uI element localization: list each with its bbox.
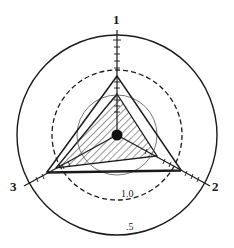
ring-label-dashed: 1.0 xyxy=(121,188,134,199)
axis-label-2: 2 xyxy=(212,179,219,194)
axis-label-3: 3 xyxy=(10,179,17,194)
axis-2-line xyxy=(117,135,210,186)
axis-label-1: 1 xyxy=(113,12,120,27)
radar-diagram: 1 2 3 1.0 .5 xyxy=(0,0,234,248)
ring-label-outer: .5 xyxy=(126,221,134,232)
center-dot xyxy=(112,130,123,141)
axes xyxy=(24,30,210,186)
hatched-region xyxy=(56,94,157,168)
